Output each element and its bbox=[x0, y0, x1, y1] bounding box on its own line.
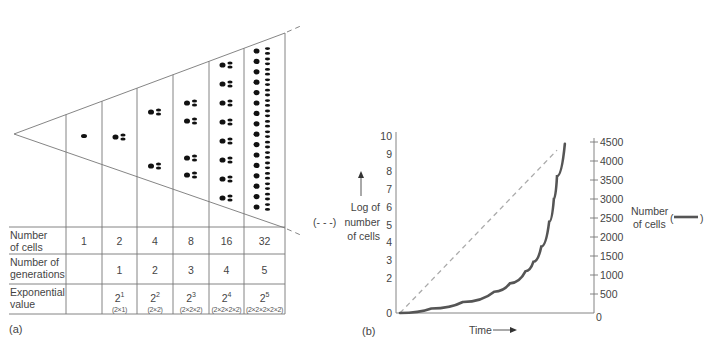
cell bbox=[227, 119, 232, 122]
cell bbox=[227, 180, 232, 183]
cell bbox=[227, 176, 232, 179]
cell bbox=[265, 130, 270, 133]
cell bbox=[254, 194, 260, 199]
right-tick-label: 2000 bbox=[600, 231, 624, 243]
left-axis-label: Log of bbox=[351, 201, 380, 213]
right-tick-label: 0 bbox=[596, 311, 602, 323]
triangle-top-extension bbox=[287, 25, 303, 32]
cell bbox=[192, 118, 197, 121]
cell bbox=[156, 113, 161, 116]
cell bbox=[227, 142, 232, 145]
right-tick-label: 500 bbox=[600, 288, 618, 300]
cell bbox=[265, 146, 270, 149]
cell bbox=[265, 208, 270, 211]
cell bbox=[265, 166, 270, 169]
cell bbox=[265, 198, 270, 201]
left-tick-label: 8 bbox=[386, 165, 392, 177]
left-tick-label: 7 bbox=[386, 183, 392, 195]
cell bbox=[265, 156, 270, 159]
cell bbox=[265, 187, 270, 190]
cell bbox=[265, 110, 270, 113]
right-arrow-head-icon bbox=[510, 327, 517, 333]
cell bbox=[227, 66, 232, 69]
left-tick-label: 6 bbox=[386, 201, 392, 213]
cell bbox=[254, 132, 260, 137]
cell bbox=[192, 159, 197, 162]
right-tick-label: 4500 bbox=[600, 136, 624, 148]
left-tick-label: 3 bbox=[386, 254, 392, 266]
cell bbox=[227, 138, 232, 141]
cell bbox=[184, 172, 190, 177]
cell bbox=[81, 134, 87, 138]
left-tick-label: 5 bbox=[386, 219, 392, 231]
cell bbox=[220, 81, 226, 86]
cell bbox=[265, 83, 270, 86]
cell bbox=[192, 155, 197, 158]
cell-count: 8 bbox=[173, 235, 209, 247]
x-axis-label: Time bbox=[469, 324, 492, 336]
cell bbox=[265, 99, 270, 102]
cell bbox=[184, 155, 190, 160]
cell bbox=[220, 62, 226, 67]
cell bbox=[192, 176, 197, 179]
cell bbox=[227, 161, 232, 164]
cell bbox=[220, 119, 226, 124]
cell bbox=[254, 48, 260, 53]
left-axis-label: of cells bbox=[347, 230, 380, 242]
cell bbox=[227, 100, 232, 103]
cell bbox=[254, 121, 260, 126]
cell bbox=[220, 138, 226, 143]
growth-chart: 0234567891005001000150020002500300035004… bbox=[313, 130, 704, 336]
left-tick-label: 2 bbox=[386, 272, 392, 284]
cell bbox=[254, 163, 260, 168]
cell bbox=[254, 184, 260, 189]
cell bbox=[227, 157, 232, 160]
exponential-value: 21(2×1) bbox=[102, 289, 137, 316]
cell bbox=[265, 68, 270, 71]
cell bbox=[265, 177, 270, 180]
cell bbox=[120, 138, 125, 141]
generation-count: 3 bbox=[173, 264, 209, 276]
right-tick-label: 1000 bbox=[600, 269, 624, 281]
cell bbox=[254, 69, 260, 74]
cell bbox=[265, 58, 270, 61]
cell bbox=[184, 118, 190, 123]
cell-count: 32 bbox=[244, 235, 285, 247]
cell bbox=[254, 80, 260, 85]
cell bbox=[227, 104, 232, 107]
cell bbox=[265, 120, 270, 123]
cell bbox=[254, 59, 260, 64]
cell bbox=[254, 111, 260, 116]
right-axis-legend-close: ) bbox=[700, 212, 704, 224]
cell-count: 16 bbox=[209, 235, 244, 247]
cell bbox=[227, 199, 232, 202]
left-tick-label: 4 bbox=[386, 236, 392, 248]
division-triangle bbox=[14, 25, 303, 236]
right-tick-label: 3000 bbox=[600, 193, 624, 205]
cell bbox=[113, 134, 119, 139]
cell bbox=[265, 73, 270, 76]
cell bbox=[192, 104, 197, 107]
cell bbox=[156, 167, 161, 170]
left-axis-label: number bbox=[344, 216, 380, 228]
left-axis-legend: (- - -) bbox=[313, 216, 336, 228]
generation-count: 2 bbox=[137, 264, 173, 276]
exponential-value: 23(2×2×2) bbox=[173, 289, 209, 316]
cell bbox=[227, 195, 232, 198]
cell bbox=[265, 78, 270, 81]
cell bbox=[265, 141, 270, 144]
exponential-value: 24(2×2×2×2) bbox=[209, 289, 244, 316]
right-axis-label: of cells bbox=[633, 218, 666, 230]
cell bbox=[220, 157, 226, 162]
right-axis-legend-open: ( bbox=[670, 212, 674, 224]
cell bbox=[220, 176, 226, 181]
panel-a-label: (a) bbox=[9, 323, 22, 335]
cell bbox=[220, 100, 226, 105]
cell bbox=[265, 203, 270, 206]
panel-b-label: (b) bbox=[362, 325, 375, 337]
cell bbox=[254, 204, 260, 209]
cell bbox=[265, 151, 270, 154]
row-header: Numberof cells bbox=[10, 229, 47, 253]
cell bbox=[156, 163, 161, 166]
cell bbox=[265, 182, 270, 185]
